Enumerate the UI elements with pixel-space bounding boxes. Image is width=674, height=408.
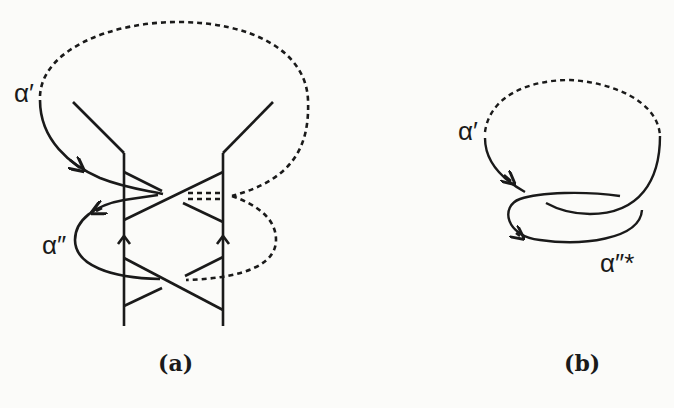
dashed-top-arc [485, 80, 660, 136]
alpha-double-prime-star-label-b: α″* [600, 250, 634, 276]
alpha-prime-curve [485, 138, 525, 192]
alpha-prime-strand [40, 100, 163, 194]
caption-b: (b) [564, 352, 600, 374]
lower-right-short [185, 257, 223, 276]
figure-canvas [0, 0, 674, 408]
upper-right-short [183, 203, 223, 222]
alpha-prime-label-a: α′ [14, 80, 34, 106]
lower-loop [508, 193, 642, 242]
caption-a: (a) [158, 352, 193, 374]
panel-b [485, 80, 660, 242]
arrow-icon [70, 160, 80, 168]
lower-left-short [124, 288, 162, 306]
upper-left-return [124, 195, 158, 200]
alpha-prime-label-b: α′ [458, 118, 478, 144]
right-descending-curve [546, 136, 660, 214]
panel-a [40, 22, 308, 326]
right-top-diagonal [223, 102, 273, 153]
alpha-double-prime-label-a: α″ [42, 232, 66, 258]
alpha-double-prime-strand [75, 200, 160, 279]
left-top-diagonal [73, 102, 124, 153]
